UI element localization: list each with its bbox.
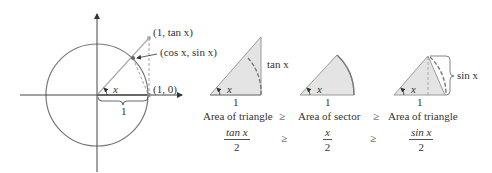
sector-figure <box>300 55 354 95</box>
formula-numerator: x <box>323 127 332 140</box>
caption-triangle-large: Area of triangle <box>203 111 273 122</box>
point-cos-sin-label: (cos x, sin x) <box>160 47 217 58</box>
formula-geq-1: ≥ <box>281 133 287 144</box>
formula-numerator: sin x <box>409 127 433 140</box>
formula-sin-over-2: sin x 2 <box>409 127 433 153</box>
angle-arc <box>104 88 107 95</box>
triangle-large-base-label: 1 <box>233 97 239 108</box>
formula-tan-over-2: tan x 2 <box>224 127 250 153</box>
sin-label: sin x <box>457 70 478 81</box>
triangle-small-base-label: 1 <box>417 97 423 108</box>
tan-label: tan x <box>267 59 289 70</box>
point-cos-sin <box>131 56 135 60</box>
point-one-zero <box>147 93 151 97</box>
pointer-arrow <box>137 54 157 58</box>
caption-geq-1: ≥ <box>279 111 285 122</box>
terminal-ray <box>97 38 149 95</box>
formula-x-over-2: x 2 <box>323 127 332 153</box>
triangle-large-figure <box>210 37 261 95</box>
formula-numerator: tan x <box>224 127 250 140</box>
radius-brace <box>98 97 148 105</box>
caption-sector: Area of sector <box>298 111 360 122</box>
angle-label: x <box>113 84 118 95</box>
triangle-large-angle-label: x <box>227 84 232 95</box>
sector-base-label: 1 <box>325 97 331 108</box>
point-one-zero-label: (1, 0) <box>153 84 177 95</box>
formula-geq-2: ≥ <box>370 133 376 144</box>
formula-denominator: 2 <box>418 140 424 153</box>
point-tan <box>147 36 151 40</box>
triangle-small-angle-label: x <box>411 84 416 95</box>
formula-denominator: 2 <box>234 140 240 153</box>
chord-dashed-line <box>133 58 148 94</box>
point-tan-label: (1, tan x) <box>153 27 193 38</box>
sector-angle-label: x <box>317 84 322 95</box>
formula-denominator: 2 <box>325 140 331 153</box>
caption-geq-2: ≥ <box>373 111 379 122</box>
caption-triangle-small: Area of triangle <box>388 111 458 122</box>
radius-label: 1 <box>121 106 127 117</box>
triangle-small-figure <box>394 56 454 95</box>
